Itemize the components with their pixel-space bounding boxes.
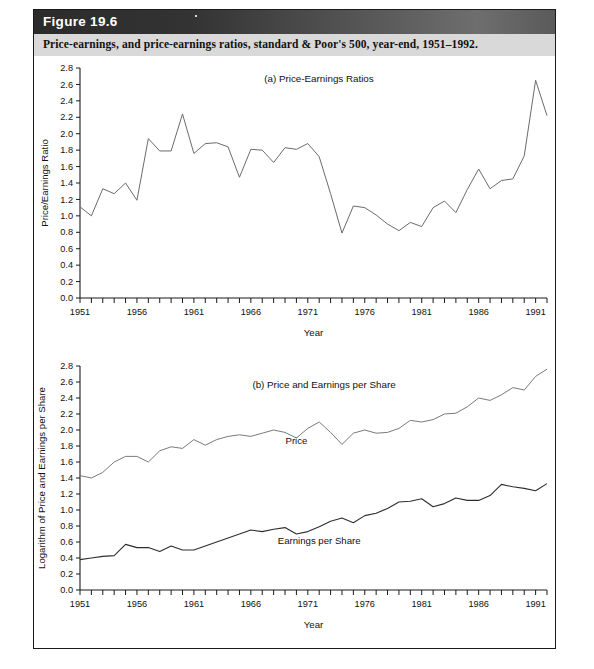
- figure-page: Figure 19.6 Price-earnings, and price-ea…: [0, 0, 594, 669]
- y-axis-tick-label: 1.0: [60, 211, 73, 221]
- x-axis-tick-label: 1986: [468, 599, 488, 609]
- y-axis-tick-label: 2.6: [60, 80, 73, 90]
- y-axis-tick-label: 1.6: [60, 162, 73, 172]
- x-axis-tick-label: 1991: [525, 307, 545, 317]
- x-axis-tick-label: 1971: [298, 307, 318, 317]
- y-axis-tick-label: 0.8: [60, 227, 73, 237]
- price-earnings-ratio-plot: 0.00.20.40.60.81.01.21.41.61.82.02.22.42…: [34, 56, 554, 352]
- figure-header-band: Figure 19.6: [34, 10, 555, 34]
- y-axis-tick-label: 2.8: [60, 63, 73, 73]
- y-axis-tick-label: 2.2: [60, 112, 73, 122]
- x-axis-tick-label: 1966: [241, 307, 261, 317]
- figure-number-label: Figure 19.6: [43, 14, 118, 29]
- chart-panel-a: 0.00.20.40.60.81.01.21.41.61.82.02.22.42…: [34, 56, 555, 352]
- y-axis-tick-label: 0.4: [60, 260, 73, 270]
- price-and-earnings-plot: 0.00.20.40.60.81.01.21.41.61.82.02.22.42…: [34, 352, 554, 644]
- chart-panel-b: 0.00.20.40.60.81.01.21.41.61.82.02.22.42…: [34, 352, 555, 644]
- x-axis-title: Year: [304, 327, 324, 338]
- x-axis-tick-label: 1951: [70, 307, 90, 317]
- figure-container: Figure 19.6 Price-earnings, and price-ea…: [33, 9, 556, 649]
- series-line-price-earnings-ratio: [80, 80, 547, 233]
- series-line-earnings-per-share: [80, 484, 547, 560]
- y-axis-tick-label: 2.0: [60, 129, 73, 139]
- x-axis-tick-label: 1971: [298, 599, 318, 609]
- x-axis-tick-label: 1991: [525, 599, 545, 609]
- x-axis-tick-label: 1981: [411, 599, 431, 609]
- x-axis-tick-label: 1966: [241, 599, 261, 609]
- panel-title: (a) Price-Earnings Ratios: [264, 73, 374, 84]
- y-axis-tick-label: 0.8: [60, 521, 73, 531]
- panel-title: (b) Price and Earnings per Share: [252, 379, 396, 390]
- y-axis-title: Price/Earnings Ratio: [39, 139, 50, 226]
- x-axis-tick-label: 1976: [355, 307, 375, 317]
- y-axis-tick-label: 0.2: [60, 569, 73, 579]
- y-axis-tick-label: 0.2: [60, 277, 73, 287]
- y-axis-tick-label: 1.2: [60, 489, 73, 499]
- y-axis-title: Logarithm of Price and Earnings per Shar…: [36, 387, 47, 569]
- y-axis-tick-label: 0.4: [60, 553, 73, 563]
- y-axis-tick-label: 1.6: [60, 457, 73, 467]
- y-axis-tick-label: 0.6: [60, 244, 73, 254]
- y-axis-tick-label: 1.2: [60, 195, 73, 205]
- x-axis-tick-label: 1981: [411, 307, 431, 317]
- header-speck-artifact: [195, 15, 197, 17]
- y-axis-tick-label: 1.8: [60, 441, 73, 451]
- x-axis-title: Year: [304, 619, 324, 630]
- y-axis-tick-label: 0.6: [60, 537, 73, 547]
- figure-caption-bar: Price-earnings, and price-earnings ratio…: [34, 34, 555, 56]
- series-annotation: Price: [285, 435, 307, 446]
- y-axis-tick-label: 2.4: [60, 96, 73, 106]
- figure-caption-text: Price-earnings, and price-earnings ratio…: [43, 38, 478, 50]
- x-axis-tick-label: 1986: [468, 307, 488, 317]
- x-axis-tick-label: 1956: [127, 599, 147, 609]
- x-axis-tick-label: 1956: [127, 307, 147, 317]
- y-axis-tick-label: 0.0: [60, 585, 73, 595]
- y-axis-tick-label: 1.8: [60, 145, 73, 155]
- x-axis-tick-label: 1961: [184, 307, 204, 317]
- y-axis-tick-label: 2.4: [60, 393, 73, 403]
- x-axis-tick-label: 1961: [184, 599, 204, 609]
- y-axis-tick-label: 2.6: [60, 377, 73, 387]
- y-axis-tick-label: 2.2: [60, 409, 73, 419]
- y-axis-tick-label: 2.8: [60, 361, 73, 371]
- y-axis-tick-label: 1.4: [60, 178, 73, 188]
- x-axis-tick-label: 1951: [70, 599, 90, 609]
- y-axis-tick-label: 1.4: [60, 473, 73, 483]
- y-axis-tick-label: 2.0: [60, 425, 73, 435]
- series-annotation: Earnings per Share: [278, 535, 361, 546]
- x-axis-tick-label: 1976: [355, 599, 375, 609]
- y-axis-tick-label: 1.0: [60, 505, 73, 515]
- y-axis-tick-label: 0.0: [60, 293, 73, 303]
